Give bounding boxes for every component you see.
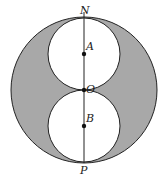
label-n: N bbox=[79, 4, 90, 17]
geometry-diagram: N A O B P bbox=[0, 0, 166, 177]
label-b: B bbox=[85, 112, 94, 125]
label-o: O bbox=[86, 83, 95, 96]
label-a: A bbox=[85, 40, 94, 53]
label-p: P bbox=[79, 164, 88, 177]
